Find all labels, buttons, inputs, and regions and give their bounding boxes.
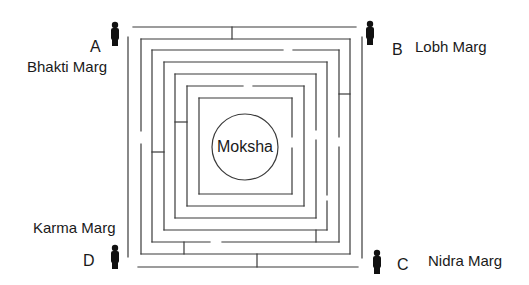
person-silhouette-icon [373, 250, 381, 274]
path-letter-a: A [90, 39, 101, 55]
path-letter-d: D [83, 253, 95, 269]
path-name-lobh-marg: Lobh Marg [415, 39, 487, 54]
person-silhouette-icon [111, 22, 119, 46]
maze-diagram: Moksha A Bhakti Marg B Lobh Marg C Nidra… [0, 0, 529, 285]
path-name-bhakti-marg: Bhakti Marg [27, 59, 107, 74]
path-letter-c: C [397, 257, 409, 273]
path-letter-b: B [392, 42, 403, 58]
person-silhouette-icon [111, 245, 119, 269]
path-name-karma-marg: Karma Marg [33, 220, 116, 235]
person-silhouette-icon [366, 21, 374, 45]
moksha-label: Moksha [212, 138, 278, 156]
path-name-nidra-marg: Nidra Marg [428, 253, 502, 268]
